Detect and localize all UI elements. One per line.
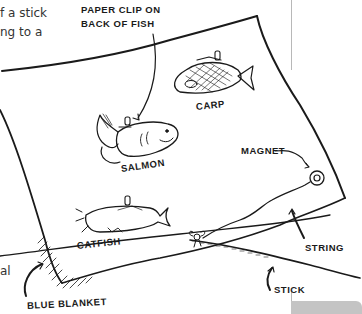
salmon-fish bbox=[97, 114, 178, 163]
string-knot bbox=[189, 231, 205, 247]
fishing-game-illustration bbox=[0, 0, 362, 314]
blanket-outline bbox=[0, 16, 345, 283]
carp-fish bbox=[175, 51, 254, 93]
stick bbox=[0, 215, 330, 256]
label-paper-clip-line-1: PAPER CLIP ON bbox=[81, 4, 161, 15]
label-magnet: MAGNET bbox=[241, 145, 285, 156]
label-string: STRING bbox=[305, 242, 344, 253]
label-paper-clip-line-2: BACK OF FISH bbox=[81, 18, 155, 29]
label-stick: STICK bbox=[274, 284, 305, 295]
catfish-fish bbox=[76, 196, 170, 232]
